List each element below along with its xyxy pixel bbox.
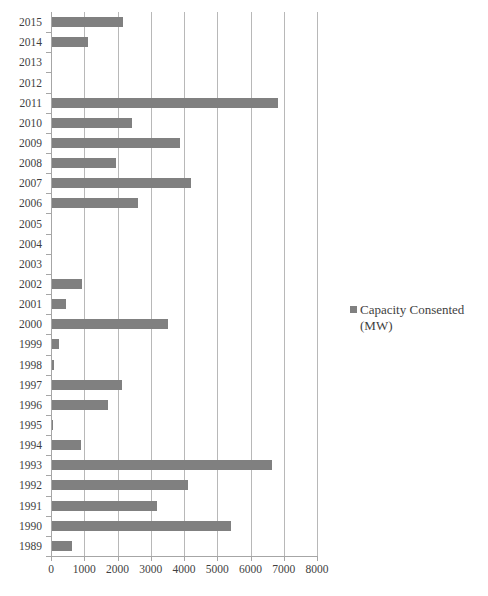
x-axis-tick xyxy=(284,556,285,561)
y-axis-label: 2003 xyxy=(0,258,42,270)
x-axis-tick xyxy=(217,556,218,561)
y-axis-label: 1992 xyxy=(0,479,42,491)
bar-row xyxy=(51,72,317,92)
bar-row xyxy=(51,294,317,314)
y-axis-tick xyxy=(46,234,51,235)
bar-row xyxy=(51,395,317,415)
bar-row xyxy=(51,93,317,113)
y-axis-label: 2014 xyxy=(0,36,42,48)
y-axis-label: 2006 xyxy=(0,197,42,209)
bar xyxy=(51,98,278,108)
bar-row xyxy=(51,12,317,32)
y-axis-tick xyxy=(46,536,51,537)
y-axis-label: 2015 xyxy=(0,16,42,28)
bar xyxy=(51,158,116,168)
x-axis-tick xyxy=(317,556,318,561)
bar xyxy=(51,17,123,27)
y-axis-tick xyxy=(46,516,51,517)
bar-row xyxy=(51,32,317,52)
y-axis-tick xyxy=(46,395,51,396)
x-axis-tick xyxy=(251,556,252,561)
bar-row xyxy=(51,153,317,173)
bar xyxy=(51,380,122,390)
bar-row xyxy=(51,536,317,556)
y-axis-label: 1990 xyxy=(0,520,42,532)
bar-row xyxy=(51,516,317,536)
y-axis-label: 1989 xyxy=(0,540,42,552)
y-axis-tick xyxy=(46,435,51,436)
bar xyxy=(51,319,168,329)
bar xyxy=(51,279,82,289)
bar xyxy=(51,460,272,470)
bar xyxy=(51,501,157,511)
bar-row xyxy=(51,415,317,435)
bar-row xyxy=(51,455,317,475)
y-axis-tick xyxy=(46,72,51,73)
bar-row xyxy=(51,475,317,495)
bar xyxy=(51,440,81,450)
y-axis-tick xyxy=(46,334,51,335)
y-axis-label: 2010 xyxy=(0,117,42,129)
y-axis-tick xyxy=(46,93,51,94)
x-axis-tick xyxy=(184,556,185,561)
bar-row xyxy=(51,113,317,133)
bar xyxy=(51,521,231,531)
bar xyxy=(51,400,108,410)
bar xyxy=(51,198,138,208)
y-axis-tick xyxy=(46,32,51,33)
bar-row xyxy=(51,496,317,516)
y-axis-tick xyxy=(46,375,51,376)
y-axis-label: 2005 xyxy=(0,218,42,230)
y-axis-tick xyxy=(46,294,51,295)
bar-row xyxy=(51,435,317,455)
bar xyxy=(51,299,66,309)
x-axis-tick xyxy=(84,556,85,561)
y-axis-tick xyxy=(46,193,51,194)
legend-label: Capacity Consented (MW) xyxy=(360,302,486,334)
bar-chart: 2015201420132012201120102009200820072006… xyxy=(0,0,488,596)
bar-row xyxy=(51,334,317,354)
y-axis-label: 2007 xyxy=(0,177,42,189)
y-axis-label: 2002 xyxy=(0,278,42,290)
bar-row xyxy=(51,355,317,375)
y-axis-tick xyxy=(46,133,51,134)
y-axis-tick xyxy=(46,496,51,497)
y-axis-tick xyxy=(46,475,51,476)
bar-row xyxy=(51,254,317,274)
bar xyxy=(51,339,59,349)
plot-area xyxy=(51,12,317,556)
y-axis-label: 2000 xyxy=(0,318,42,330)
y-axis-label: 1991 xyxy=(0,500,42,512)
y-axis-tick xyxy=(46,213,51,214)
y-axis-tick xyxy=(46,254,51,255)
chart-legend: Capacity Consented (MW) xyxy=(350,302,486,334)
x-axis-tick xyxy=(118,556,119,561)
x-axis-tick xyxy=(51,556,52,561)
bar xyxy=(51,178,191,188)
y-axis-tick xyxy=(46,455,51,456)
y-axis-label: 2012 xyxy=(0,77,42,89)
bar-row xyxy=(51,133,317,153)
y-axis-label: 1994 xyxy=(0,439,42,451)
gridline xyxy=(317,12,318,556)
bar-row xyxy=(51,193,317,213)
y-axis-label: 1996 xyxy=(0,399,42,411)
bar xyxy=(51,480,188,490)
y-axis-label: 1998 xyxy=(0,359,42,371)
y-axis-tick xyxy=(46,173,51,174)
y-axis-label: 1999 xyxy=(0,338,42,350)
bar xyxy=(51,37,88,47)
y-axis-tick xyxy=(46,52,51,53)
bar-row xyxy=(51,213,317,233)
bar-row xyxy=(51,274,317,294)
bar xyxy=(51,541,72,551)
y-axis-tick xyxy=(46,113,51,114)
y-axis-label: 1997 xyxy=(0,379,42,391)
y-axis-label: 1993 xyxy=(0,459,42,471)
x-axis-label: 8000 xyxy=(292,563,342,576)
y-axis-tick xyxy=(46,355,51,356)
bar-row xyxy=(51,173,317,193)
y-axis-label: 1995 xyxy=(0,419,42,431)
y-axis-label: 2004 xyxy=(0,238,42,250)
y-axis-label: 2013 xyxy=(0,56,42,68)
